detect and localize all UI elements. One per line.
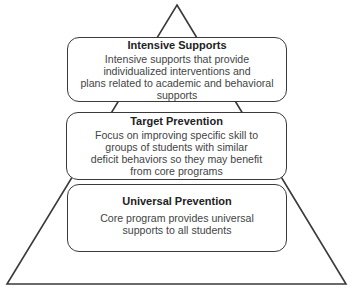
description-line: Focus on improving specific skill to xyxy=(91,129,262,141)
tier-title: Universal Prevention xyxy=(122,195,231,208)
tier-description: Intensive supports that provide individu… xyxy=(80,53,273,101)
description-line: deficit behaviors so they may benefit xyxy=(91,153,262,165)
tier-universal-prevention: Universal Prevention Core program provid… xyxy=(67,184,287,252)
description-line: supports xyxy=(80,89,273,101)
description-line: plans related to academic and behavioral xyxy=(80,77,273,89)
description-line: groups of students with similar xyxy=(91,141,262,153)
tier-description: Focus on improving specific skill to gro… xyxy=(91,129,262,177)
tier-description: Core program provides universal supports… xyxy=(100,212,254,236)
tier-intensive-supports: Intensive Supports Intensive supports th… xyxy=(67,37,287,102)
description-line: from core programs xyxy=(91,165,262,177)
description-line: Core program provides universal xyxy=(100,212,254,224)
tier-title: Target Prevention xyxy=(130,115,223,128)
description-line: Intensive supports that provide xyxy=(80,53,273,65)
description-line: supports to all students xyxy=(100,224,254,236)
tier-target-prevention: Target Prevention Focus on improving spe… xyxy=(66,112,287,180)
description-line: individualized interventions and xyxy=(80,65,273,77)
tier-title: Intensive Supports xyxy=(127,39,226,52)
